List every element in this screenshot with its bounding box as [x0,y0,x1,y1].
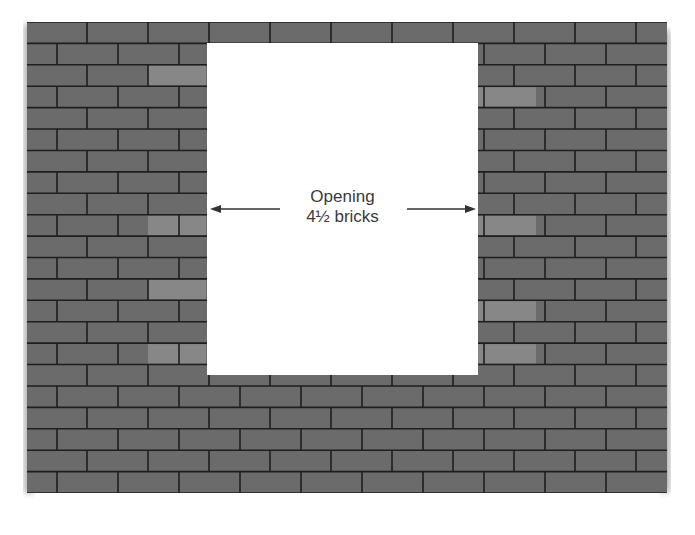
opening-width-label: 4½ bricks [207,207,478,227]
opening-label: Opening [207,187,478,207]
brick-wall-diagram [0,0,695,535]
